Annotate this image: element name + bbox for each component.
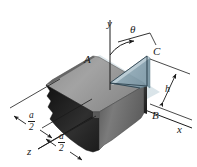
fraction-denominator: 2 xyxy=(28,123,35,133)
fraction-numerator: a xyxy=(58,132,65,142)
axis-label-x: x xyxy=(177,124,182,135)
fraction-denominator: 2 xyxy=(58,144,65,154)
point-label-C: C xyxy=(153,46,160,57)
mechanics-figure: y x z θ A C B h a 2 a 2 xyxy=(0,0,197,167)
dimension-label-a-over-2-back: a 2 xyxy=(58,132,65,154)
point-label-B: B xyxy=(152,110,159,121)
axis-label-z: z xyxy=(27,146,31,157)
theta-angle-arc xyxy=(110,33,150,55)
angle-label-theta: θ xyxy=(130,24,135,35)
block-far-right-sliver xyxy=(144,83,147,114)
point-label-A: A xyxy=(84,54,91,65)
axis-label-y: y xyxy=(107,18,112,29)
dimension-label-h: h xyxy=(165,84,170,94)
fraction-numerator: a xyxy=(28,111,35,121)
leader-C xyxy=(150,33,156,45)
dimension-label-a-over-2-front: a 2 xyxy=(28,111,35,133)
wedge-right-face xyxy=(147,56,150,88)
